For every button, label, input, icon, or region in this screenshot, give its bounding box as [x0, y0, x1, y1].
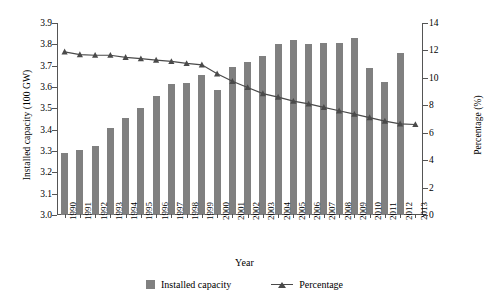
y-tick-right	[423, 78, 428, 79]
legend-item-percentage: Percentage	[271, 279, 343, 290]
x-tick	[339, 214, 340, 218]
y-tick-label-left: 3.4	[40, 125, 52, 135]
y-tick-label-right: 2	[429, 183, 434, 193]
x-tick	[354, 214, 355, 218]
chart-legend: Installed capacity Percentage	[0, 279, 489, 290]
y-tick-label-left: 3.3	[40, 146, 52, 156]
x-tick	[385, 214, 386, 218]
x-tick	[65, 214, 66, 218]
x-tick	[232, 214, 233, 218]
y-tick-label-left: 3.6	[40, 82, 52, 92]
y-tick-label-right: 10	[429, 73, 439, 83]
x-tick-label: 1997	[175, 202, 185, 220]
y-tick-right	[423, 105, 428, 106]
x-tick-label: 2010	[373, 202, 383, 220]
y-tick-label-left: 3.7	[40, 61, 52, 71]
x-tick	[309, 214, 310, 218]
y-tick-left	[52, 215, 57, 216]
x-tick-label: 2013	[419, 202, 429, 220]
percentage-line-series	[57, 23, 423, 215]
x-tick	[324, 214, 325, 218]
x-tick	[202, 214, 203, 218]
y-tick-label-left: 3.8	[40, 39, 52, 49]
x-tick	[187, 214, 188, 218]
x-tick	[126, 214, 127, 218]
x-tick-label: 1990	[68, 202, 78, 220]
line-marker-triangle	[62, 49, 68, 55]
x-tick	[415, 214, 416, 218]
x-tick-label: 1991	[83, 202, 93, 220]
x-tick-label: 2011	[388, 202, 398, 220]
x-axis-title: Year	[0, 257, 489, 268]
y-tick-label-right: 12	[429, 45, 439, 55]
y-axis-right-title: Percentage (%)	[473, 40, 483, 210]
x-tick	[400, 214, 401, 218]
y-tick-label-left: 3.0	[40, 210, 52, 220]
x-tick	[263, 214, 264, 218]
y-tick-right	[423, 50, 428, 51]
legend-item-installed-capacity: Installed capacity	[146, 279, 231, 290]
chart-container: Installed capacity (100 GW) Percentage (…	[0, 0, 489, 300]
y-tick-label-right: 0	[429, 210, 434, 220]
x-tick-label: 2012	[404, 202, 414, 220]
y-tick-right	[423, 133, 428, 134]
y-tick-label-left: 3.9	[40, 18, 52, 28]
y-tick-right	[423, 160, 428, 161]
x-tick-label: 1992	[99, 202, 109, 220]
x-tick-label: 1993	[114, 202, 124, 220]
x-tick-label: 2007	[327, 202, 337, 220]
x-tick	[171, 214, 172, 218]
x-tick-label: 1999	[205, 202, 215, 220]
x-tick	[293, 214, 294, 218]
y-tick-label-left: 3.5	[40, 103, 52, 113]
x-tick-label: 2004	[282, 202, 292, 220]
y-tick-right	[423, 188, 428, 189]
x-tick-label: 2000	[221, 202, 231, 220]
legend-label-percentage: Percentage	[299, 279, 343, 290]
x-tick	[80, 214, 81, 218]
x-tick	[370, 214, 371, 218]
x-tick-label: 1995	[144, 202, 154, 220]
y-tick-label-left: 3.2	[40, 167, 52, 177]
x-tick	[141, 214, 142, 218]
percentage-line	[65, 52, 416, 125]
x-tick-label: 2008	[343, 202, 353, 220]
line-marker-triangle	[214, 70, 220, 76]
x-tick-label: 2009	[358, 202, 368, 220]
y-tick-label-right: 6	[429, 128, 434, 138]
x-tick	[95, 214, 96, 218]
x-tick-label: 2002	[251, 202, 261, 220]
x-tick	[156, 214, 157, 218]
plot-area: 3.03.13.23.33.43.53.63.73.83.9 024681012…	[57, 23, 423, 215]
line-marker-triangle	[229, 78, 235, 84]
y-tick-right	[423, 23, 428, 24]
y-axis-left-title: Installed capacity (100 GW)	[22, 40, 32, 210]
legend-square-icon	[146, 280, 155, 289]
x-tick-label: 2001	[236, 202, 246, 220]
x-tick-label: 2006	[312, 202, 322, 220]
legend-line-triangle-icon	[271, 280, 293, 289]
x-tick	[248, 214, 249, 218]
x-tick-label: 1994	[129, 202, 139, 220]
y-tick-label-right: 8	[429, 100, 434, 110]
x-tick-label: 2005	[297, 202, 307, 220]
x-tick	[278, 214, 279, 218]
y-tick-label-right: 4	[429, 155, 434, 165]
x-tick	[110, 214, 111, 218]
y-tick-label-left: 3.1	[40, 189, 52, 199]
x-tick	[217, 214, 218, 218]
legend-label-installed-capacity: Installed capacity	[161, 279, 231, 290]
x-tick-label: 1998	[190, 202, 200, 220]
x-tick-label: 1996	[160, 202, 170, 220]
y-tick-label-right: 14	[429, 18, 439, 28]
x-tick-label: 2003	[266, 202, 276, 220]
